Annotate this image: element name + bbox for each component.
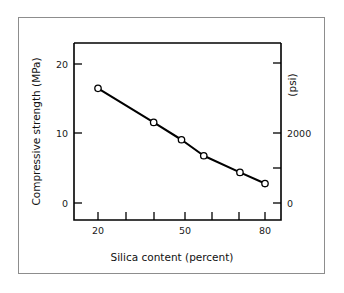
data-point-marker bbox=[237, 169, 243, 175]
data-point-marker bbox=[201, 153, 207, 159]
y2-axis-ticks bbox=[273, 63, 281, 203]
chart-plot: 20 10 0 2000 0 20 50 80 bbox=[0, 0, 344, 293]
data-point-marker bbox=[95, 85, 101, 91]
y-axis-title: Compressive strength (MPa) bbox=[30, 57, 42, 205]
y-tick-label-20: 20 bbox=[56, 59, 68, 70]
x-tick-label-50: 50 bbox=[179, 225, 191, 236]
data-point-marker bbox=[150, 119, 156, 125]
x-tick-label-20: 20 bbox=[92, 225, 104, 236]
data-point-marker bbox=[178, 137, 184, 143]
figure-canvas: 20 10 0 2000 0 20 50 80 bbox=[0, 0, 344, 293]
plot-frame bbox=[74, 43, 281, 220]
y-tick-label-0: 0 bbox=[62, 198, 68, 209]
x-tick-label-80: 80 bbox=[259, 225, 271, 236]
data-point-markers bbox=[95, 85, 268, 187]
y-tick-label-10: 10 bbox=[56, 128, 68, 139]
x-axis-ticks bbox=[98, 212, 265, 220]
y-axis-ticks bbox=[74, 64, 82, 203]
y2-axis-title: (psi) bbox=[286, 73, 298, 96]
x-axis-title: Silica content (percent) bbox=[111, 251, 234, 263]
y2-tick-label-2000: 2000 bbox=[287, 128, 311, 139]
y2-tick-label-0: 0 bbox=[287, 198, 293, 209]
data-point-marker bbox=[262, 180, 268, 186]
